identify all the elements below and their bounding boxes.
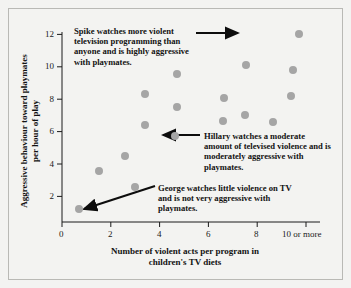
x-tick-label-6: 6 [206,229,211,239]
x-axis-title-line2: children's TV diets [149,257,222,267]
x-tick-label-8: 8 [254,229,259,239]
x-tick-label-2: 2 [108,229,113,239]
data-point [131,183,139,191]
data-point [141,121,149,129]
y-axis-title: Aggressive behaviour toward playmates pe… [19,31,41,231]
x-axis-title: Number of violent acts per program in ch… [60,246,310,268]
x-tick-label-0: 0 [59,229,64,239]
data-point [173,70,181,78]
y-axis-ticks [57,34,62,196]
chart-page: 12 10 8 6 4 2 0 2 4 6 8 10 or more Numbe… [0,0,351,288]
data-point [141,90,149,98]
arrow-george [84,186,155,209]
x-tick-label-4: 4 [157,229,162,239]
data-point-spike [295,30,303,38]
annotation-spike: Spike watches more violent television pr… [74,26,196,67]
y-axis-title-line2: per hour of play [30,100,40,162]
y-axis-title-line1: Aggressive behaviour toward playmates [19,54,29,207]
annotation-hillary: Hillary watches a moderate amount of tel… [204,131,332,172]
annotation-george: George watches little violence on TV and… [158,183,294,214]
data-point [289,66,297,74]
data-point [241,111,249,119]
data-point [173,103,181,111]
data-point [95,167,103,175]
data-point [121,152,129,160]
x-tick-label-10-or-more: 10 or more [282,229,322,239]
x-axis-title-line1: Number of violent acts per program in [111,246,259,256]
data-point [269,118,277,126]
x-axis-ticks [62,222,306,227]
